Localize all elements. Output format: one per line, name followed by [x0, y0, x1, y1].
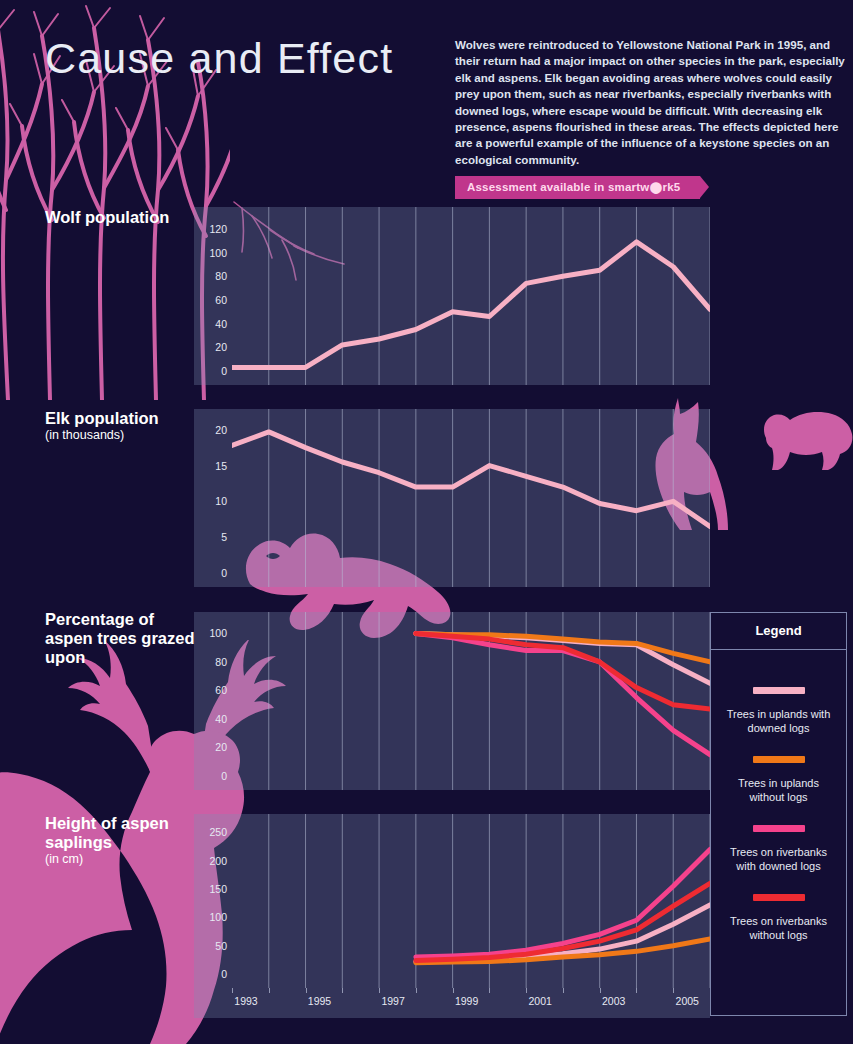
- y-axis-wolf: 020406080100120: [194, 207, 232, 385]
- legend-swatch: [753, 825, 805, 832]
- y-axis-tick-label: 100: [209, 247, 227, 259]
- legend-item: Trees on riverbanks without logs: [711, 887, 846, 942]
- y-axis-tick-label: 50: [215, 940, 227, 952]
- legend-item: Trees on riverbanks with downed logs: [711, 818, 846, 873]
- chart-label-grazed-title: Percentage of aspen trees grazed upon: [45, 610, 194, 666]
- y-axis-tick-label: 100: [209, 911, 227, 923]
- chart-label-height-subtitle: (in cm): [45, 852, 195, 867]
- chart-label-elk-title: Elk population: [45, 409, 159, 427]
- legend: Legend Trees in uplands with downed logs…: [710, 612, 847, 1016]
- series-line: [232, 242, 710, 368]
- x-axis-tick: [379, 988, 380, 993]
- assessment-badge[interactable]: Assessment available in smartw⬤rk5: [455, 176, 700, 199]
- y-axis-tick-label: 20: [215, 341, 227, 353]
- x-axis-tick-label: 1997: [381, 995, 404, 1007]
- x-axis-tick: [453, 988, 454, 993]
- y-axis-tick-label: 20: [215, 424, 227, 436]
- x-axis-tick: [636, 988, 637, 993]
- chart-label-height-title: Height of aspen saplings: [45, 814, 169, 851]
- assessment-badge-wrapper: Assessment available in smartw⬤rk5: [455, 176, 700, 199]
- x-axis-years: 1993199519971999200120032005: [194, 988, 710, 1018]
- y-axis-tick-label: 120: [209, 223, 227, 235]
- chart-label-grazed: Percentage of aspen trees grazed upon: [45, 610, 195, 667]
- chart-panel-wolf-population: 020406080100120: [194, 207, 710, 385]
- x-axis-tick-label: 2001: [528, 995, 551, 1007]
- legend-label: Trees on riverbanks with downed logs: [711, 845, 846, 873]
- x-axis-tick: [232, 988, 233, 993]
- chart-svg: [232, 207, 710, 385]
- chart-label-elk: Elk population (in thousands): [45, 409, 159, 443]
- chart-label-elk-subtitle: (in thousands): [45, 428, 159, 443]
- x-axis-tick: [342, 988, 343, 993]
- y-axis-tick-label: 100: [209, 627, 227, 639]
- chart-panel-aspen-grazed: 020406080100: [194, 612, 710, 790]
- chart-svg: [232, 814, 710, 988]
- x-axis-tick-label: 1995: [308, 995, 331, 1007]
- legend-label: Trees in uplands with downed logs: [711, 707, 846, 735]
- x-axis-tick-label: 2005: [676, 995, 699, 1007]
- y-axis-grazed: 020406080100: [194, 612, 232, 790]
- y-axis-tick-label: 40: [215, 713, 227, 725]
- y-axis-tick-label: 20: [215, 741, 227, 753]
- x-axis-tick: [269, 988, 270, 993]
- y-axis-tick-label: 250: [209, 826, 227, 838]
- x-axis-tick-label: 2003: [602, 995, 625, 1007]
- infographic-page: Cause and Effect Wolves were reintroduce…: [0, 0, 853, 1044]
- legend-swatch: [753, 687, 805, 694]
- x-axis-tick: [600, 988, 601, 993]
- legend-label: Trees in uplands without logs: [711, 776, 846, 804]
- y-axis-height: 050100150200250: [194, 814, 232, 988]
- y-axis-tick-label: 200: [209, 855, 227, 867]
- y-axis-tick-label: 5: [221, 531, 227, 543]
- y-axis-tick-label: 0: [221, 365, 227, 377]
- x-axis-tick-label: 1999: [455, 995, 478, 1007]
- y-axis-tick-label: 80: [215, 656, 227, 668]
- x-axis-tick: [563, 988, 564, 993]
- chart-label-wolf-title: Wolf population: [45, 208, 169, 226]
- plot-area-wolf: [232, 207, 710, 385]
- chart-panel-aspen-height: 050100150200250: [194, 814, 710, 988]
- legend-swatch: [753, 894, 805, 901]
- legend-label: Trees on riverbanks without logs: [711, 914, 846, 942]
- y-axis-tick-label: 0: [221, 770, 227, 782]
- y-axis-tick-label: 0: [221, 567, 227, 579]
- legend-item: Trees in uplands with downed logs: [711, 680, 846, 735]
- y-axis-tick-label: 15: [215, 460, 227, 472]
- page-title: Cause and Effect: [45, 34, 393, 83]
- chart-svg: [232, 612, 710, 790]
- plot-area-elk: [232, 409, 710, 587]
- legend-item: Trees in uplands without logs: [711, 749, 846, 804]
- y-axis-tick-label: 0: [221, 968, 227, 980]
- y-axis-tick-label: 40: [215, 318, 227, 330]
- x-axis-tick: [416, 988, 417, 993]
- chart-label-height: Height of aspen saplings (in cm): [45, 814, 195, 867]
- legend-title: Legend: [711, 613, 846, 650]
- y-axis-tick-label: 10: [215, 495, 227, 507]
- chart-label-wolf: Wolf population: [45, 208, 169, 227]
- legend-items: Trees in uplands with downed logsTrees i…: [711, 650, 846, 942]
- x-axis-tick: [489, 988, 490, 993]
- x-axis-tick-label: 1993: [234, 995, 257, 1007]
- x-axis-tick: [526, 988, 527, 993]
- y-axis-tick-label: 60: [215, 294, 227, 306]
- chart-panel-elk-population: 05101520: [194, 409, 710, 587]
- intro-paragraph: Wolves were reintroduced to Yellowstone …: [455, 37, 845, 168]
- wolf-silhouette-right: [760, 402, 853, 472]
- x-axis-tick: [306, 988, 307, 993]
- x-axis-tick: [673, 988, 674, 993]
- chart-svg: [232, 409, 710, 587]
- legend-swatch: [753, 756, 805, 763]
- y-axis-tick-label: 60: [215, 684, 227, 696]
- plot-area-grazed: [232, 612, 710, 790]
- y-axis-elk: 05101520: [194, 409, 232, 587]
- series-line: [232, 432, 710, 527]
- plot-area-height: [232, 814, 710, 988]
- y-axis-tick-label: 80: [215, 270, 227, 282]
- y-axis-tick-label: 150: [209, 883, 227, 895]
